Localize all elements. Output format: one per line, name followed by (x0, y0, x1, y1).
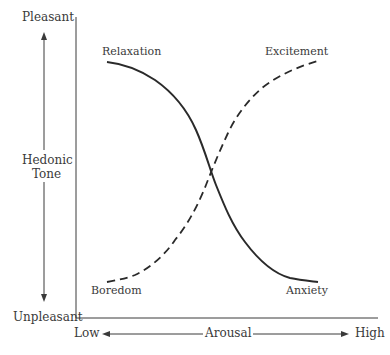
low-label: Low (74, 326, 99, 340)
high-label: High (355, 326, 385, 340)
pleasant-label: Pleasant (22, 10, 74, 24)
tone-label: Tone (32, 167, 61, 181)
boredom-label: Boredom (91, 284, 142, 297)
arousal-label: Arousal (205, 326, 252, 340)
unpleasant-label: Unpleasant (13, 310, 82, 324)
telic-curve-solid (107, 62, 318, 282)
excitement-label: Excitement (265, 45, 328, 58)
relaxation-label: Relaxation (102, 45, 161, 58)
hedonic-label: Hedonic (22, 153, 73, 167)
paratelic-curve-dashed (107, 61, 318, 282)
anxiety-label: Anxiety (286, 284, 328, 297)
